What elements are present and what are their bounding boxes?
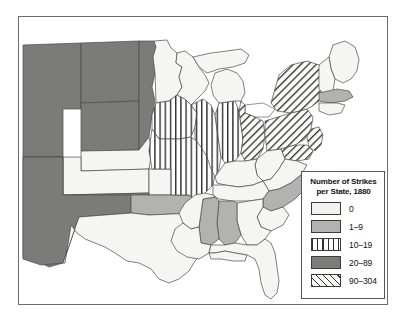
state-kentucky	[215, 159, 263, 187]
legend-title-line-2: per State, 1880	[307, 187, 380, 197]
legend-label-1: 1–9	[349, 222, 363, 232]
state-florida	[209, 239, 279, 299]
legend-title: Number of Strikes per State, 1880	[307, 177, 380, 196]
legend-item-2: 10–19	[307, 236, 380, 253]
map-frame: Number of Strikes per State, 1880 0 1–9 …	[18, 16, 388, 305]
legend-title-line-1: Number of Strikes	[307, 177, 380, 187]
legend-label-0: 0	[349, 204, 354, 214]
state-washington-oregon-idaho	[23, 43, 81, 157]
state-montana	[81, 41, 139, 103]
state-kansas	[149, 169, 171, 195]
map-figure: Number of Strikes per State, 1880 0 1–9 …	[0, 0, 400, 321]
legend-swatch-3	[311, 256, 341, 269]
legend-item-0: 0	[307, 200, 380, 217]
state-maryland-delaware	[281, 145, 313, 161]
map-legend: Number of Strikes per State, 1880 0 1–9 …	[301, 171, 385, 299]
legend-item-3: 20–89	[307, 254, 380, 271]
legend-item-4: 90–304	[307, 272, 380, 289]
state-connecticut-rhodeisland	[319, 103, 345, 115]
legend-item-1: 1–9	[307, 218, 380, 235]
legend-swatch-2	[311, 238, 341, 251]
state-michigan-upper	[193, 49, 249, 73]
legend-label-3: 20–89	[349, 258, 372, 268]
legend-label-4: 90–304	[349, 276, 377, 286]
state-michigan-lower	[211, 69, 245, 103]
legend-label-2: 10–19	[349, 240, 372, 250]
legend-swatch-0	[311, 202, 341, 215]
legend-swatch-4	[311, 274, 341, 287]
state-wyoming	[81, 101, 139, 151]
legend-swatch-1	[311, 220, 341, 233]
